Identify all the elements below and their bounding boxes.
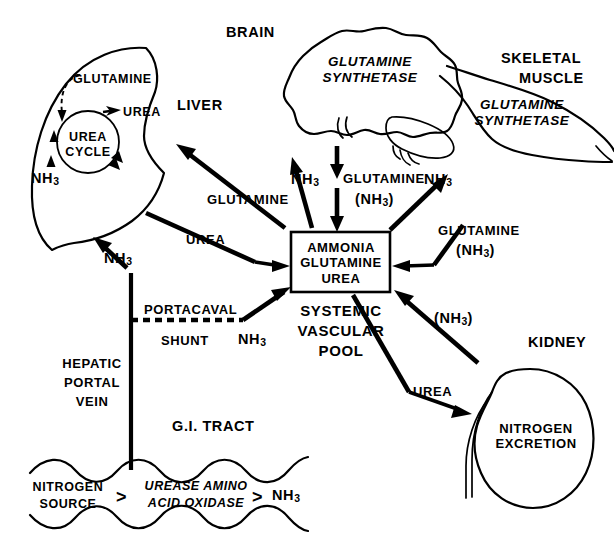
gi-substrate-label: NITROGEN SOURCE (33, 479, 104, 513)
pool-caption: SYSTEMIC VASCULAR POOL (297, 301, 384, 360)
pool-caption-line1: SYSTEMIC (300, 302, 381, 319)
arrow-pool-to-liver-glutamine (176, 144, 285, 228)
hepatic-portal-vein-line1: HEPATIC (62, 356, 121, 371)
pool-caption-line2: VASCULAR (297, 322, 384, 339)
portal-ammonia-subscript: 3 (126, 256, 132, 267)
liver-ammonia-label: NH3 (31, 170, 59, 189)
gi-arrow-glyph-1: > (116, 487, 127, 508)
hepatic-portal-vein-line3: VEIN (76, 394, 109, 409)
pool-box-line2: GLUTAMINE (300, 255, 382, 270)
pool-box-contents: AMMONIA GLUTAMINE UREA (300, 240, 382, 286)
kidney-function-line2: EXCRETION (495, 436, 576, 451)
gi-enzymes-label: UREASE AMINO ACID OXIDASE (145, 478, 248, 512)
arrow-brain-to-pool-glutamine (330, 146, 344, 232)
arrow-pool-to-brain-ammonia (290, 157, 312, 228)
flow-label-muscle-glutamine-line2: (NH3) (456, 242, 495, 261)
brain-title: BRAIN (226, 24, 275, 41)
urea-cycle-label-line1: UREA (69, 130, 107, 144)
portacaval-shunt-species: NH3 (238, 331, 266, 350)
brain-ammonia-subscript: 3 (313, 177, 319, 188)
gi-tract-title: G.I. TRACT (172, 418, 255, 435)
skeletal-muscle-title-line1: SKELETAL (501, 50, 581, 67)
brain-enzyme-line2: SYNTHETASE (323, 70, 418, 85)
portal-vein-species: NH3 (104, 250, 132, 269)
liver-title: LIVER (177, 97, 223, 114)
muscle-enzyme-line1: GLUTAMINE (480, 97, 564, 112)
hepatic-portal-vein-line2: PORTAL (64, 375, 120, 390)
hepatic-portal-vein-label: HEPATIC PORTAL VEIN (62, 355, 121, 412)
pool-box-line1: AMMONIA (307, 240, 375, 255)
gi-enzymes-line1: UREASE AMINO (145, 479, 248, 493)
shunt-ammonia-subscript: 3 (260, 337, 266, 348)
gi-enzymes-line2: ACID OXIDASE (148, 496, 244, 510)
pool-caption-line3: POOL (319, 342, 364, 359)
gi-product-label: NH3 (272, 487, 300, 506)
nitrogen-metabolism-diagram: LIVER GLUTAMINE UREA UREA CYCLE NH3 BRAI… (0, 0, 614, 544)
flow-label-kidney-ammonia: (NH3) (434, 310, 473, 329)
brain-enzyme-label: GLUTAMINE SYNTHETASE (323, 54, 418, 86)
pool-box-line3: UREA (321, 271, 360, 286)
portacaval-shunt-label-line2: SHUNT (161, 333, 209, 348)
gi-product-subscript: 3 (294, 493, 300, 504)
brain-organ-shape (284, 28, 462, 165)
flow-label-muscle-ammonia: NH3 (424, 171, 452, 190)
flow-label-brain-ammonia: NH3 (291, 171, 319, 190)
liver-internal-urea-label: UREA (123, 105, 161, 120)
liver-ammonia-uptake-arrows (47, 130, 59, 167)
kidney-title: KIDNEY (528, 334, 586, 351)
flow-label-liver-urea: UREA (186, 232, 225, 247)
gi-substrate-line1: NITROGEN (33, 480, 104, 494)
muscle-enzyme-line2: SYNTHETASE (475, 113, 570, 128)
flow-label-brain-glutamine-line2: (NH3) (355, 191, 394, 210)
kidney-function-line1: NITROGEN (499, 421, 572, 436)
flow-label-kidney-urea: UREA (413, 384, 452, 399)
flow-label-muscle-glutamine-line1: GLUTAMINE (438, 223, 520, 238)
skeletal-muscle-title-line2: MUSCLE (519, 70, 584, 87)
gi-substrate-line2: SOURCE (39, 497, 96, 511)
brain-enzyme-line1: GLUTAMINE (328, 54, 412, 69)
liver-ammonia-subscript: 3 (53, 176, 59, 187)
kidney-function-label: NITROGEN EXCRETION (495, 421, 576, 452)
muscle-ammonia-subscript: 3 (446, 177, 452, 188)
portacaval-shunt-label-line1: PORTACAVAL (144, 302, 237, 317)
skeletal-muscle-enzyme-label: GLUTAMINE SYNTHETASE (475, 97, 570, 129)
liver-internal-glutamine-label: GLUTAMINE (73, 72, 152, 87)
urea-cycle-label: UREA CYCLE (65, 130, 110, 160)
gi-arrow-glyph-2: > (252, 487, 263, 508)
urea-cycle-label-line2: CYCLE (65, 145, 110, 159)
liver-urea-arrow (103, 106, 121, 116)
flow-label-liver-glutamine: GLUTAMINE (207, 192, 289, 207)
flow-label-brain-glutamine-line1: GLUTAMINE (343, 171, 425, 186)
